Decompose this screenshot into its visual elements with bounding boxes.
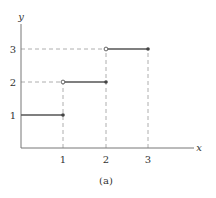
open-dot-3 [104,47,108,51]
y-tick-3: 3 [10,44,16,55]
axes [21,24,194,148]
dashed-guides [21,49,148,148]
figure-caption: (a) [99,175,113,186]
closed-dot-1 [61,113,65,117]
y-axis-label: y [17,11,24,22]
closed-dot-2 [104,80,108,84]
step-function-chart: 1 2 3 1 2 3 x y (a) [0,0,216,198]
y-tick-1: 1 [10,110,16,121]
x-axis-label: x [196,142,202,153]
x-tick-1: 1 [60,154,66,165]
step-segments [21,49,148,115]
closed-dot-3 [146,47,150,51]
x-tick-2: 2 [103,154,109,165]
open-dot-2 [61,80,65,84]
x-tick-3: 3 [145,154,151,165]
y-tick-2: 2 [10,77,16,88]
